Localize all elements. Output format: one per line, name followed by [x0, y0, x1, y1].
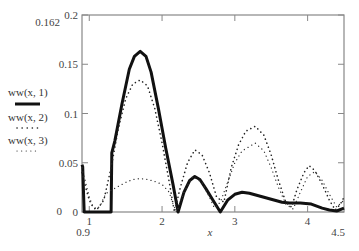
y-tick-label: 0 [73, 206, 79, 218]
y-max-range-label: 0.162 [35, 16, 60, 28]
y-tick-label: 0.1 [64, 108, 78, 120]
legend-label-ww3: ww(x, 3) [8, 134, 48, 147]
y-tick-label: 0.15 [59, 58, 79, 70]
y-min-range-label: 0 [57, 205, 63, 217]
x-tick-label: 2 [159, 215, 165, 227]
x-tick-label: 3 [232, 215, 238, 227]
legend-label-ww1: ww(x, 1) [8, 86, 48, 99]
legend: ww(x, 1) ww(x, 2) ww(x, 3) [8, 86, 48, 151]
y-tick-label: 0.05 [59, 157, 79, 169]
legend-label-ww2: ww(x, 2) [8, 111, 48, 124]
line-chart: 123400.050.10.150.2 ww(x, 1) ww(x, 2) ww… [0, 0, 359, 251]
x-min-range-label: 0.9 [76, 226, 90, 238]
y-tick-label: 0.2 [64, 9, 78, 21]
x-axis-title: x [207, 226, 213, 238]
series-line-ww1 [82, 51, 344, 212]
x-max-range-label: 4.5 [331, 226, 345, 238]
x-tick-label: 4 [305, 215, 311, 227]
data-series [82, 51, 344, 212]
